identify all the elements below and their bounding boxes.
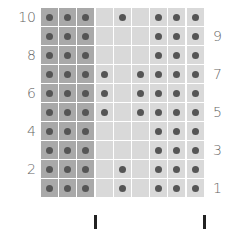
stitch-cell bbox=[114, 122, 131, 140]
purl-dot-icon bbox=[137, 90, 144, 97]
stitch-cell bbox=[41, 8, 58, 26]
stitch-cell bbox=[150, 179, 167, 197]
stitch-cell bbox=[187, 84, 204, 102]
purl-dot-icon bbox=[82, 128, 89, 135]
purl-dot-icon bbox=[173, 90, 180, 97]
purl-dot-icon bbox=[46, 128, 53, 135]
stitch-cell bbox=[150, 27, 167, 45]
purl-dot-icon bbox=[46, 71, 53, 78]
stitch-cell bbox=[77, 179, 94, 197]
purl-dot-icon bbox=[46, 33, 53, 40]
stitch-cell bbox=[41, 141, 58, 159]
purl-dot-icon bbox=[173, 52, 180, 59]
stitch-cell bbox=[96, 122, 113, 140]
stitch-cell bbox=[41, 65, 58, 83]
purl-dot-icon bbox=[64, 147, 71, 154]
stitch-cell bbox=[168, 65, 185, 83]
stitch-cell bbox=[132, 8, 149, 26]
purl-dot-icon bbox=[46, 109, 53, 116]
stitch-cell bbox=[96, 160, 113, 178]
stitch-cell bbox=[114, 46, 131, 64]
purl-dot-icon bbox=[101, 90, 108, 97]
row-label-left: 10 bbox=[18, 10, 36, 24]
stitch-cell bbox=[59, 103, 76, 121]
stitch-cell bbox=[114, 160, 131, 178]
stitch-cell bbox=[77, 65, 94, 83]
stitch-cell bbox=[187, 46, 204, 64]
stitch-cell bbox=[168, 84, 185, 102]
stitch-grid bbox=[41, 8, 205, 198]
stitch-cell bbox=[150, 141, 167, 159]
purl-dot-icon bbox=[46, 52, 53, 59]
stitch-cell bbox=[132, 27, 149, 45]
stitch-cell bbox=[77, 84, 94, 102]
purl-dot-icon bbox=[64, 33, 71, 40]
row-label-right: 5 bbox=[213, 105, 222, 119]
purl-dot-icon bbox=[155, 185, 162, 192]
purl-dot-icon bbox=[46, 185, 53, 192]
stitch-cell bbox=[59, 46, 76, 64]
stitch-cell bbox=[187, 65, 204, 83]
purl-dot-icon bbox=[64, 71, 71, 78]
purl-dot-icon bbox=[82, 147, 89, 154]
stitch-cell bbox=[168, 179, 185, 197]
row-label-left: 4 bbox=[27, 124, 36, 138]
stitch-cell bbox=[114, 141, 131, 159]
stitch-cell bbox=[150, 46, 167, 64]
purl-dot-icon bbox=[155, 33, 162, 40]
purl-dot-icon bbox=[173, 14, 180, 21]
purl-dot-icon bbox=[173, 109, 180, 116]
purl-dot-icon bbox=[137, 109, 144, 116]
stitch-cell bbox=[114, 65, 131, 83]
purl-dot-icon bbox=[64, 185, 71, 192]
stitch-cell bbox=[132, 141, 149, 159]
purl-dot-icon bbox=[173, 147, 180, 154]
purl-dot-icon bbox=[64, 109, 71, 116]
knitting-chart: 10864297531 bbox=[0, 0, 230, 230]
row-label-right: 3 bbox=[213, 143, 222, 157]
purl-dot-icon bbox=[64, 52, 71, 59]
purl-dot-icon bbox=[46, 14, 53, 21]
purl-dot-icon bbox=[173, 185, 180, 192]
stitch-cell bbox=[77, 46, 94, 64]
row-label-left: 8 bbox=[27, 48, 36, 62]
stitch-cell bbox=[168, 8, 185, 26]
stitch-cell bbox=[96, 141, 113, 159]
stitch-cell bbox=[59, 160, 76, 178]
row-label-left: 6 bbox=[27, 86, 36, 100]
purl-dot-icon bbox=[173, 71, 180, 78]
stitch-cell bbox=[168, 27, 185, 45]
purl-dot-icon bbox=[192, 14, 199, 21]
stitch-cell bbox=[41, 27, 58, 45]
stitch-cell bbox=[132, 179, 149, 197]
purl-dot-icon bbox=[137, 71, 144, 78]
purl-dot-icon bbox=[192, 147, 199, 154]
purl-dot-icon bbox=[155, 52, 162, 59]
stitch-cell bbox=[187, 160, 204, 178]
stitch-cell bbox=[96, 179, 113, 197]
stitch-cell bbox=[114, 84, 131, 102]
purl-dot-icon bbox=[101, 71, 108, 78]
purl-dot-icon bbox=[155, 71, 162, 78]
purl-dot-icon bbox=[119, 185, 126, 192]
purl-dot-icon bbox=[46, 166, 53, 173]
stitch-cell bbox=[132, 84, 149, 102]
stitch-cell bbox=[150, 84, 167, 102]
stitch-cell bbox=[77, 103, 94, 121]
purl-dot-icon bbox=[155, 109, 162, 116]
stitch-cell bbox=[168, 141, 185, 159]
stitch-cell bbox=[59, 179, 76, 197]
stitch-cell bbox=[59, 122, 76, 140]
stitch-cell bbox=[114, 27, 131, 45]
purl-dot-icon bbox=[64, 90, 71, 97]
purl-dot-icon bbox=[155, 90, 162, 97]
stitch-cell bbox=[132, 122, 149, 140]
stitch-cell bbox=[187, 27, 204, 45]
stitch-cell bbox=[41, 122, 58, 140]
stitch-cell bbox=[114, 179, 131, 197]
stitch-cell bbox=[150, 103, 167, 121]
purl-dot-icon bbox=[192, 166, 199, 173]
purl-dot-icon bbox=[173, 33, 180, 40]
purl-dot-icon bbox=[46, 147, 53, 154]
stitch-cell bbox=[77, 141, 94, 159]
